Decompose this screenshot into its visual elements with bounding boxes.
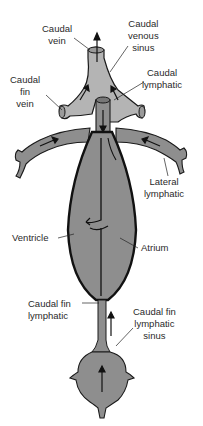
label-atrium: Atrium xyxy=(141,242,168,254)
label-lateral-lymphatic: Lateral lymphatic xyxy=(144,176,184,200)
label-caudal-fin-lymphatic-sinus: Caudal fin lymphatic sinus xyxy=(133,306,176,342)
label-ventricle: Ventricle xyxy=(12,232,48,244)
label-caudal-fin-lymphatic: Caudal fin lymphatic xyxy=(28,298,71,322)
lymph-heart-diagram xyxy=(0,0,203,426)
caudal-fin-lymphatic xyxy=(70,300,134,418)
label-caudal-vein: Caudal vein xyxy=(42,23,72,47)
label-caudal-lymphatic: Caudal lymphatic xyxy=(142,67,182,91)
label-caudal-fin-vein: Caudal fin vein xyxy=(10,74,40,110)
label-caudal-venous-sinus: Caudal venous sinus xyxy=(128,18,159,54)
lymph-heart xyxy=(68,132,136,300)
